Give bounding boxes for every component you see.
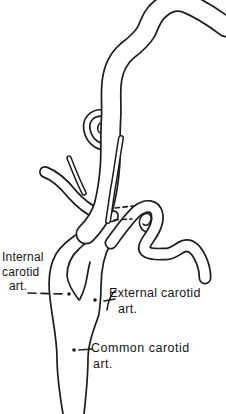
- internal-label-line1: Internal: [2, 250, 44, 265]
- common-label-line1: Common carotid: [91, 340, 190, 356]
- bifurcation-notch-left-edge: [67, 236, 97, 300]
- hidden-edge-dash-upper: [115, 206, 133, 208]
- internal-leader-dot: [67, 292, 71, 296]
- internal-label-line2: carotid: [2, 265, 44, 280]
- external-leader-dot: [93, 298, 97, 302]
- bifurcation-notch-right-edge: [80, 262, 90, 299]
- external-label-line1: External carotid: [109, 285, 201, 301]
- internal-carotid-label: Internal carotid art.: [2, 250, 44, 294]
- common-label-line2: art.: [93, 356, 190, 372]
- common-carotid-label: Common carotid art.: [91, 340, 190, 372]
- internal-carotid-artery: [86, 2, 226, 234]
- carotid-artery-diagram: Internal carotid art. External carotid a…: [0, 0, 226, 414]
- common-carotid-left-edge: [49, 231, 82, 414]
- external-carotid-label: External carotid art.: [109, 285, 201, 317]
- external-label-line2: art.: [118, 301, 201, 317]
- external-carotid-artery: [111, 206, 205, 278]
- internal-label-line3: art.: [9, 279, 44, 294]
- common-leader-dot: [72, 348, 76, 352]
- external-carotid-fill: [111, 206, 205, 278]
- internal-carotid-fill: [86, 2, 226, 234]
